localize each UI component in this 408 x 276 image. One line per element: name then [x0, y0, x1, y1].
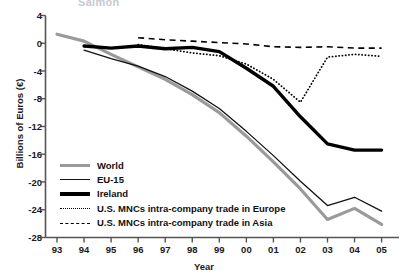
legend-label: U.S. MNCs intra-company trade in Europe: [97, 203, 285, 214]
y-tick-label: -24: [22, 205, 42, 215]
legend-item-eu15: EU-15: [60, 172, 310, 186]
x-tick-label: 97: [150, 244, 180, 255]
series-line-u-s-mncs-intra-company-trade-in-europe: [138, 45, 381, 103]
legend-label: World: [97, 160, 124, 171]
chart-legend: World EU-15 Ireland U.S. MNCs intra-comp…: [60, 158, 310, 230]
x-tick-label: 96: [123, 244, 153, 255]
x-tick-label: 01: [258, 244, 288, 255]
x-tick-label: 02: [286, 244, 316, 255]
x-tick-label: 94: [69, 244, 99, 255]
y-tick-label: -4: [22, 67, 42, 77]
chart-figure: Salmon 4 0 -4 -8 -12 -16 -20 -24 -28 93 …: [0, 0, 408, 276]
legend-swatch-ireland-icon: [60, 188, 90, 200]
x-tick-label: 98: [177, 244, 207, 255]
legend-label: U.S. MNCs intra-company trade in Asia: [97, 217, 272, 228]
x-tick-label: 04: [340, 244, 370, 255]
x-tick-label: 03: [313, 244, 343, 255]
x-axis-title: Year: [0, 261, 408, 272]
y-axis-title: Billions of Euros (€): [14, 49, 25, 199]
series-line-u-s-mncs-intra-company-trade-in-asia: [138, 38, 381, 48]
legend-swatch-eu15-icon: [60, 174, 90, 186]
y-tick-label: -16: [22, 150, 42, 160]
x-tick-label: 05: [367, 244, 397, 255]
y-tick-label: 4: [22, 11, 42, 21]
y-tick-label: -12: [22, 122, 42, 132]
y-tick-label: 0: [22, 39, 42, 49]
chart-plot-area: [0, 0, 408, 276]
legend-swatch-dotted-icon: [60, 202, 90, 214]
legend-swatch-dashed-icon: [60, 217, 90, 229]
legend-item-world: World: [60, 158, 310, 172]
legend-item-us-mncs-europe: U.S. MNCs intra-company trade in Europe: [60, 201, 310, 215]
legend-label: Ireland: [97, 188, 128, 199]
y-tick-label: -28: [22, 233, 42, 243]
x-tick-label: 00: [231, 244, 261, 255]
x-tick-label: 93: [42, 244, 72, 255]
y-tick-label: -20: [22, 178, 42, 188]
x-tick-label: 95: [96, 244, 126, 255]
x-tick-label: 99: [204, 244, 234, 255]
legend-item-ireland: Ireland: [60, 187, 310, 201]
y-axis-tick-labels: 4 0 -4 -8 -12 -16 -20 -24 -28: [22, 0, 42, 276]
legend-label: EU-15: [97, 174, 124, 185]
legend-swatch-world-icon: [60, 159, 90, 171]
y-tick-label: -8: [22, 94, 42, 104]
legend-item-us-mncs-asia: U.S. MNCs intra-company trade in Asia: [60, 216, 310, 230]
